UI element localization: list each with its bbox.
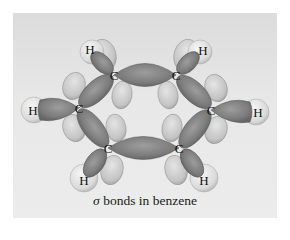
sigma-symbol: σ <box>93 193 100 208</box>
carbon-label: C <box>207 103 216 118</box>
hydrogen-label: H <box>199 173 208 188</box>
cc-sigma-bonds <box>71 64 217 160</box>
carbon-label: C <box>175 141 184 156</box>
hydrogen-label: H <box>85 42 94 57</box>
hydrogen-label: H <box>28 103 37 118</box>
carbon-label: C <box>75 101 84 116</box>
carbon-label: C <box>104 141 113 156</box>
hydrogen-label: H <box>198 43 207 58</box>
carbon-label: C <box>110 68 119 83</box>
carbon-label: C <box>172 68 181 83</box>
figure-caption: σ bonds in benzene <box>13 193 277 209</box>
caption-text: bonds in benzene <box>100 193 197 208</box>
hydrogen-label: H <box>253 105 262 120</box>
hydrogen-label: H <box>79 173 88 188</box>
